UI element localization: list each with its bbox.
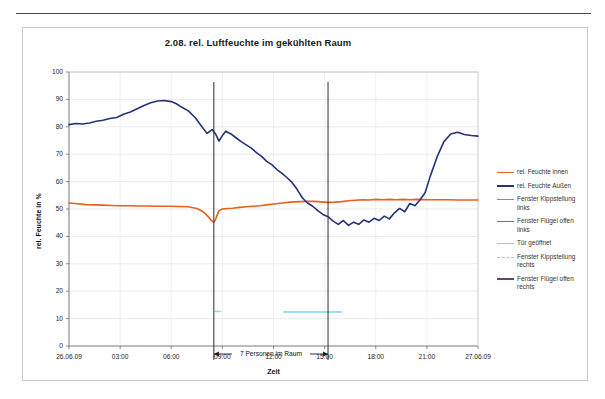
- legend-item[interactable]: Fenster Kippstellung links: [497, 195, 587, 211]
- legend-color-swatch: [497, 217, 514, 225]
- legend-item-label: Fenster Kippstellung rechts: [517, 253, 587, 269]
- legend-item-label: Fenster Flügel offen rechts: [517, 275, 587, 291]
- legend-item[interactable]: Tür geöffnet: [497, 239, 587, 247]
- legend-item-label: Tür geöffnet: [517, 239, 587, 247]
- legend-color-swatch: [497, 253, 514, 261]
- x-axis-tick-label: 09:00: [196, 353, 248, 360]
- x-axis-tick-label: 12:00: [248, 353, 300, 360]
- legend-item[interactable]: rel. Feuchte innen: [497, 168, 587, 176]
- x-axis-tick-label: 18:00: [350, 353, 402, 360]
- legend-color-swatch: [497, 168, 514, 176]
- y-axis-tick-label: 10: [23, 315, 63, 322]
- legend-item[interactable]: Fenster Kippstellung rechts: [497, 253, 587, 269]
- legend-color-swatch: [497, 239, 514, 247]
- legend-color-swatch: [497, 195, 514, 203]
- y-axis-tick-label: 90: [23, 95, 63, 102]
- y-axis-tick-label: 0: [23, 342, 63, 349]
- legend-item-label: Fenster Kippstellung links: [517, 195, 587, 211]
- legend-color-swatch: [497, 275, 514, 283]
- legend-item-label: Fenster Flügel offen links: [517, 217, 587, 233]
- y-axis-tick-label: 40: [23, 232, 63, 239]
- x-axis-tick-label: 26.06.09: [43, 353, 95, 360]
- y-axis-tick-label: 50: [23, 205, 63, 212]
- header-divider: [16, 13, 591, 14]
- y-axis-tick-label: 20: [23, 287, 63, 294]
- legend-color-swatch: [497, 182, 514, 190]
- y-axis-tick-label: 60: [23, 178, 63, 185]
- y-axis-tick-label: 70: [23, 150, 63, 157]
- legend-item-label: rel. Feuchte innen: [517, 168, 587, 176]
- y-axis-tick-label: 100: [23, 68, 63, 75]
- legend-item[interactable]: rel. Feuchte Außen: [497, 182, 587, 190]
- legend-item[interactable]: Fenster Flügel offen rechts: [497, 275, 587, 291]
- chart-container: 2.08. rel. Luftfeuchte im gekühlten Raum…: [22, 27, 588, 381]
- x-axis-tick-label: 15:00: [299, 353, 351, 360]
- y-axis-tick-label: 30: [23, 260, 63, 267]
- chart-legend: rel. Feuchte innenrel. Feuchte AußenFens…: [497, 168, 587, 297]
- x-axis-tick-label: 06:00: [145, 353, 197, 360]
- page-canvas: 2.08. rel. Luftfeuchte im gekühlten Raum…: [0, 0, 605, 399]
- x-axis-title: Zeit: [254, 368, 294, 375]
- legend-item[interactable]: Fenster Flügel offen links: [497, 217, 587, 233]
- y-axis-title: rel. Feuchte in %: [35, 193, 42, 249]
- y-axis-tick-label: 80: [23, 123, 63, 130]
- x-axis-tick-label: 27.06.09: [452, 353, 504, 360]
- x-axis-tick-label: 03:00: [94, 353, 146, 360]
- legend-item-label: rel. Feuchte Außen: [517, 182, 587, 190]
- x-axis-tick-label: 21:00: [401, 353, 453, 360]
